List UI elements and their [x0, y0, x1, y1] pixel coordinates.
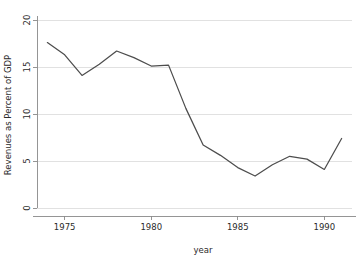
x-tick-labels: 1975198019851990: [54, 222, 335, 232]
x-axis-title: year: [194, 245, 213, 255]
x-tick-label: 1985: [227, 222, 249, 232]
axes: [33, 16, 356, 216]
series-line: [47, 43, 341, 176]
x-tick-label: 1990: [313, 222, 335, 232]
x-tick-label: 1980: [140, 222, 162, 232]
x-tick-label: 1975: [54, 222, 76, 232]
gridlines: [37, 20, 352, 208]
y-tick-label: 0: [22, 205, 32, 210]
chart-container: 05101520 1975198019851990 year Revenues …: [0, 0, 361, 260]
y-tick-label: 10: [22, 109, 32, 120]
y-tick-labels: 05101520: [22, 15, 32, 211]
line-chart: 05101520 1975198019851990 year Revenues …: [0, 0, 361, 260]
y-axis-title: Revenues as Percent of GDP: [3, 55, 13, 175]
y-tick-label: 20: [22, 15, 32, 26]
y-tick-label: 15: [22, 62, 32, 73]
y-tick-label: 5: [22, 158, 32, 163]
tick-marks: [33, 20, 324, 220]
data-series: [47, 43, 341, 176]
